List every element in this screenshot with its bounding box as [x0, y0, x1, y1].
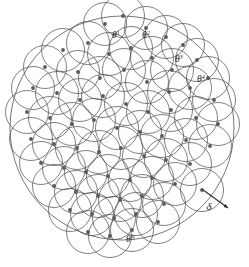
sample-point-dot [150, 56, 154, 60]
delta-disk [102, 0, 145, 38]
sample-point-dot [160, 134, 164, 138]
sample-point-dot [74, 190, 78, 194]
sample-point-dot [122, 68, 126, 72]
sample-point-dot [145, 80, 149, 84]
sample-point-dot [68, 208, 72, 212]
outer-domain-circle [10, 16, 234, 240]
sample-point-dot [107, 52, 111, 56]
sample-point-dot [103, 22, 107, 26]
sample-point-dot [195, 58, 199, 62]
sample-point-dot [118, 198, 122, 202]
sample-point-dot [52, 142, 56, 146]
sample-point-dot [112, 216, 116, 220]
sample-point-dot [98, 76, 102, 80]
sample-point-dot [194, 116, 198, 120]
sample-point-dot [84, 170, 88, 174]
sample-point-dot [61, 48, 65, 52]
sample-point-dot [78, 98, 82, 102]
sample-point-dot [184, 138, 188, 142]
sample-point-dot [62, 166, 66, 170]
sample-point-dot [173, 182, 177, 186]
sample-point-dot [216, 122, 220, 126]
sample-point-dot [101, 94, 105, 98]
theta-label-superscript: 2 [147, 30, 150, 36]
sample-point-dot [130, 228, 134, 232]
sample-point-dot [106, 174, 110, 178]
sample-point-dot [164, 35, 168, 39]
sample-point-dot [206, 76, 210, 80]
theta-label: θ2 [142, 30, 150, 41]
delta-label-group: δ [206, 200, 212, 212]
theta-label: θ4 [197, 74, 205, 85]
sample-point-dot [115, 126, 119, 130]
sample-point-dot [181, 43, 185, 47]
sample-point-dot [39, 161, 43, 165]
sample-point-dot [208, 144, 212, 148]
sample-point-dot [55, 91, 59, 95]
sample-point-dot [124, 102, 128, 106]
theta-label-superscript: 4 [202, 74, 205, 80]
outer-domain-circle-group [10, 16, 234, 240]
sample-point-dot [156, 220, 160, 224]
sample-point-dot [119, 146, 123, 150]
sample-point-dot [96, 194, 100, 198]
sample-point-dot [146, 110, 150, 114]
sample-point-dot [29, 137, 33, 141]
delta-disks-layer [6, 0, 240, 258]
sample-point-dot [128, 178, 132, 182]
sample-point-dot [170, 68, 174, 72]
sample-point-dot [31, 86, 35, 90]
sample-point-dot [86, 41, 90, 45]
sample-point-dot [150, 176, 154, 180]
delta-coverage-diagram: θ1θ2θ3θ4θN δ [0, 0, 249, 267]
caption-strip [0, 258, 249, 267]
sample-point-dot [52, 184, 56, 188]
sample-point-dot [108, 234, 112, 238]
sample-point-dot [90, 212, 94, 216]
sample-point-dot [121, 14, 125, 18]
theta-label-superscript: N [130, 234, 136, 240]
sample-point-dot [188, 162, 192, 166]
sample-point-dot [164, 158, 168, 162]
sample-point-dot [86, 230, 90, 234]
figure-root: θ1θ2θ3θ4θN δ [0, 0, 249, 267]
theta-label: θ3 [175, 54, 183, 65]
theta-label-superscript: 3 [179, 54, 183, 60]
sample-point-dot [25, 110, 29, 114]
sample-point-dot [97, 150, 101, 154]
theta-label: θ1 [112, 30, 120, 41]
sample-point-dot [162, 202, 166, 206]
sample-point-dot [138, 130, 142, 134]
sample-point-dot [92, 118, 96, 122]
sample-point-dot [142, 154, 146, 158]
sample-point-dot [134, 212, 138, 216]
delta-label: δ [206, 200, 212, 212]
sample-point-dot [43, 65, 47, 69]
sample-point-dot [48, 116, 52, 120]
sample-point-dot [169, 108, 173, 112]
sample-point-dot [140, 194, 144, 198]
sample-point-dot [167, 90, 171, 94]
sample-point-dot [129, 46, 133, 50]
sample-point-dot [212, 98, 216, 102]
sample-point-dot [70, 122, 74, 126]
theta-label-superscript: 1 [117, 30, 120, 36]
sample-point-dot [188, 86, 192, 90]
sample-point-dot [76, 70, 80, 74]
sample-point-dot [75, 146, 79, 150]
